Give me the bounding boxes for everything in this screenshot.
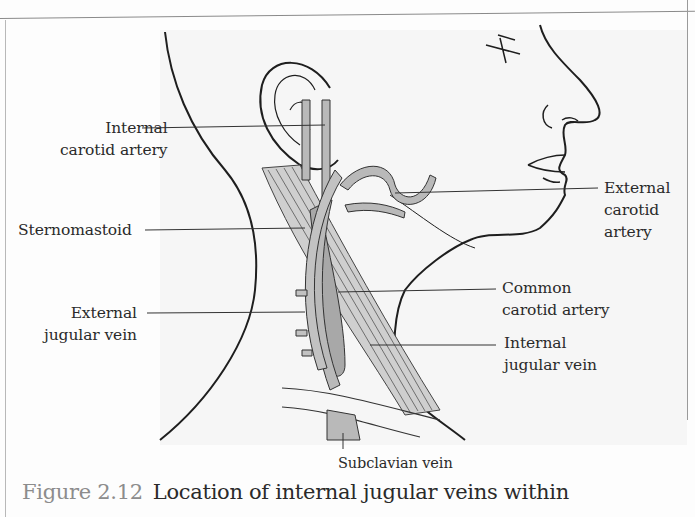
nostril-outline <box>543 105 578 128</box>
textbook-page: Internal carotid artery Sternomastoid Ex… <box>0 0 695 517</box>
label-line: carotid <box>604 199 670 221</box>
face-profile-outline <box>395 25 600 440</box>
label-line: carotid artery <box>502 299 610 321</box>
figure-caption-text: Location of internal jugular veins withi… <box>153 480 569 504</box>
label-sternomastoid: Sternomastoid <box>18 219 132 241</box>
external-carotid-artery <box>340 166 436 204</box>
label-internal-jugular-vein: Internal jugular vein <box>504 332 597 376</box>
label-external-carotid-artery: External carotid artery <box>604 177 670 243</box>
label-line: Internal <box>60 117 168 139</box>
neck-anatomy-illustration <box>0 0 695 517</box>
label-line: Internal <box>504 332 597 354</box>
figure-caption: Figure 2.12Location of internal jugular … <box>22 480 569 504</box>
label-line: artery <box>604 221 670 243</box>
label-internal-carotid-artery: Internal carotid artery <box>60 117 168 161</box>
label-subclavian-vein: Subclavian vein <box>338 452 453 474</box>
label-line: External <box>604 177 670 199</box>
label-common-carotid-artery: Common carotid artery <box>502 277 610 321</box>
label-external-jugular-vein: External jugular vein <box>44 302 137 346</box>
back-of-head-outline <box>160 32 256 440</box>
carotid-branch <box>302 100 310 180</box>
label-line: jugular vein <box>44 324 137 346</box>
label-line: External <box>44 302 137 324</box>
facial-artery-branch <box>345 203 405 218</box>
label-line: jugular vein <box>504 354 597 376</box>
eye-mark-icon <box>486 35 520 63</box>
label-line: carotid artery <box>60 139 168 161</box>
label-line: Common <box>502 277 610 299</box>
figure-number: Figure 2.12 <box>22 480 143 504</box>
